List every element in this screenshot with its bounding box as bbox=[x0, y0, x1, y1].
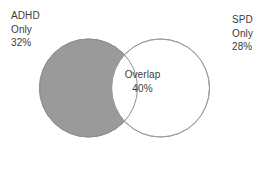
label-overlap: Overlap 40% bbox=[0, 68, 261, 95]
label-overlap-name: Overlap bbox=[24, 68, 261, 82]
label-spd-only-qualifier: Only bbox=[232, 27, 253, 41]
label-spd-only-name: SPD bbox=[232, 13, 253, 27]
label-adhd-only-qualifier: Only bbox=[11, 23, 40, 37]
label-overlap-value: 40% bbox=[24, 82, 261, 96]
label-adhd-only-name: ADHD bbox=[11, 9, 40, 23]
label-adhd-only: ADHD Only 32% bbox=[11, 9, 40, 50]
label-spd-only-value: 28% bbox=[232, 40, 253, 54]
venn-diagram: ADHD Only 32% SPD Only 28% Overlap 40% bbox=[0, 0, 261, 170]
label-spd-only: SPD Only 28% bbox=[232, 13, 253, 54]
label-adhd-only-value: 32% bbox=[11, 36, 40, 50]
